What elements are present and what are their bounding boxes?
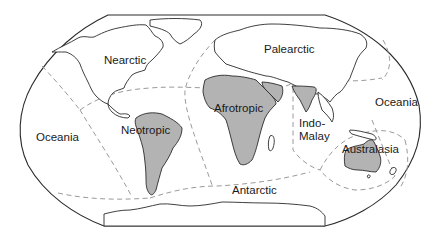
tasmania xyxy=(367,175,370,178)
label-oceania-west: Oceania xyxy=(36,131,79,144)
label-oceania-east: Oceania xyxy=(375,96,418,109)
label-afrotropic: Afrotropic xyxy=(214,102,263,115)
label-australasia: Australasia xyxy=(342,143,399,156)
label-neotropic: Neotropic xyxy=(121,124,170,137)
label-palearctic: Palearctic xyxy=(264,43,315,56)
label-nearctic: Nearctic xyxy=(104,54,146,67)
label-indo-malay: Indo- Malay xyxy=(299,117,330,143)
label-antarctic: Antarctic xyxy=(232,184,277,197)
world-map xyxy=(0,0,436,239)
